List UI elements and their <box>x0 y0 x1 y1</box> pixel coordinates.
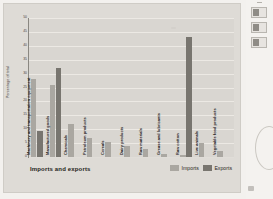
category-label: Raw materials <box>139 128 143 155</box>
screenshot-root: Percentage of total 05101520253035404550… <box>0 0 273 199</box>
bar-imports <box>68 124 74 157</box>
bar-imports <box>199 143 205 157</box>
plot-area: 05101520253035404550 Machinery and trans… <box>28 18 234 158</box>
legend-item[interactable]: Imports <box>170 165 199 171</box>
bar-group: Cereals <box>105 18 117 157</box>
bar-imports <box>124 146 130 157</box>
thumbnail-fill-icon <box>253 9 259 16</box>
y-axis-tick-label: 40 <box>23 44 27 47</box>
panel-tick-mark <box>257 2 262 3</box>
category-label: Raw cotton <box>176 134 180 155</box>
bar-group: Machinery and transportation equipment <box>31 18 43 157</box>
y-axis-tick-label: 35 <box>23 58 27 61</box>
legend-swatch-icon <box>170 165 179 171</box>
bar-imports <box>50 85 56 157</box>
chart-legend: ImportsExports <box>170 165 232 171</box>
bar-exports <box>56 68 62 157</box>
category-label: Live animals <box>195 131 199 155</box>
bar-group: Vegetable food products <box>217 18 229 157</box>
bar-group: Petroleum products <box>87 18 99 157</box>
category-label: Grease and lubricants <box>157 113 161 155</box>
y-axis-title: Percentage of total <box>6 66 10 98</box>
panel-thumbnail-2[interactable] <box>251 22 267 33</box>
bar-imports <box>161 154 167 157</box>
category-label: Machinery and transportation equipment <box>27 78 31 155</box>
panel-thumbnail-1[interactable] <box>251 7 267 18</box>
thumbnail-fill-icon <box>253 39 259 46</box>
legend-label: Exports <box>214 165 232 171</box>
category-label: Manufactured goods <box>46 116 50 155</box>
bar-group: Grease and lubricants <box>161 18 173 157</box>
legend-swatch-icon <box>203 165 212 171</box>
category-label: Dairy products <box>120 127 124 155</box>
x-axis-title: Imports and exports <box>30 166 91 172</box>
bar-imports <box>143 149 149 157</box>
side-panel <box>246 0 273 199</box>
bar-imports <box>31 79 37 157</box>
panel-thumbnail-3[interactable] <box>251 37 267 48</box>
category-label: Cereals <box>102 141 106 155</box>
gridline <box>29 157 234 158</box>
y-axis-tick-label: 30 <box>23 72 27 75</box>
bar-group: Live animals <box>199 18 211 157</box>
category-label: Petroleum products <box>83 117 87 155</box>
category-label: Vegetable food products <box>213 108 217 155</box>
category-label: Chemicals <box>64 135 68 155</box>
bar-group: Chemicals <box>68 18 80 157</box>
bar-imports <box>87 138 93 157</box>
scan-smudge <box>248 186 254 191</box>
legend-item[interactable]: Exports <box>203 165 232 171</box>
bar-group: Raw cotton <box>180 18 192 157</box>
bar-imports <box>217 151 223 157</box>
bar-group: Dairy products <box>124 18 136 157</box>
bar-group: Manufactured goods <box>50 18 62 157</box>
bar-exports <box>37 131 43 157</box>
legend-label: Imports <box>182 165 199 171</box>
bar-imports <box>105 142 111 157</box>
bar-exports <box>186 37 192 157</box>
bar-group: Raw materials <box>143 18 155 157</box>
bar-imports <box>180 155 186 157</box>
y-axis-tick-label: 45 <box>23 30 27 33</box>
y-axis-tick-label: 50 <box>23 16 27 19</box>
bar-series-container: Machinery and transportation equipmentMa… <box>29 18 234 157</box>
panel-arc-decoration <box>255 126 273 170</box>
thumbnail-fill-icon <box>253 24 259 31</box>
chart-card: Percentage of total 05101520253035404550… <box>3 3 241 193</box>
y-axis-tick-label: 0 <box>25 155 27 158</box>
